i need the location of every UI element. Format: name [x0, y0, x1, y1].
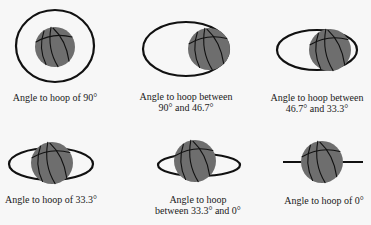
basketball-icon [309, 29, 351, 71]
caption-line-2: 90° and 46.7° [159, 102, 214, 113]
caption-line-1: Angle to hoop [169, 194, 226, 205]
basketball-icon [35, 27, 75, 67]
basketball-icon [188, 28, 230, 70]
caption-line-1: Angle to hoop of 90° [13, 92, 98, 103]
caption-line-2: between 33.3° and 0° [155, 205, 241, 216]
basketball-icon [31, 142, 73, 184]
caption-line-1: Angle to hoop of 33.3° [5, 194, 97, 205]
caption-line-1: Angle to hoop of 0° [284, 195, 364, 206]
basketball-icon [301, 141, 343, 183]
caption-line-1: Angle to hoop between [270, 92, 363, 103]
basketball-icon [174, 140, 216, 182]
caption-line-1: Angle to hoop between [139, 91, 232, 102]
hoop-angle-diagram: Angle to hoop of 90° Angle to hoop betwe… [0, 0, 371, 225]
caption-line-2: 46.7° and 33.3° [286, 103, 348, 114]
